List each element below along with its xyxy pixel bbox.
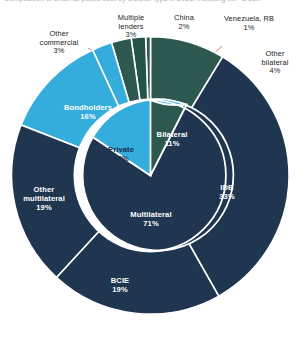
slice-label-idb: IDB 33% bbox=[203, 183, 251, 201]
slice-label-private: Private 18% bbox=[93, 145, 149, 163]
donut-chart-figure: Composition of external public debt by c… bbox=[0, 0, 307, 348]
callout-venezuela: Venezuela, RB 1% bbox=[208, 15, 290, 32]
slice-label-multilateral: Multilateral 71% bbox=[113, 210, 189, 228]
slice-label-other-multilateral: Other multilateral 19% bbox=[2, 185, 86, 212]
slice-label-bilateral: Bilateral 11% bbox=[145, 130, 199, 148]
callout-other-commercial: Other commercial 3% bbox=[20, 30, 98, 56]
callout-other-bilateral: Other bilateral 4% bbox=[248, 50, 302, 76]
callout-multiple-lenders: Multiple lenders 3% bbox=[98, 14, 164, 40]
slice-label-bondholders: Bondholders 16% bbox=[42, 103, 134, 121]
callout-china: China 2% bbox=[160, 14, 208, 31]
slice-label-bcie: BCIE 19% bbox=[90, 276, 150, 294]
